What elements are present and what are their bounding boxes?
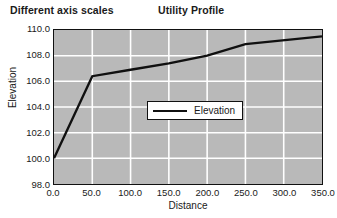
y-axis-tick-label: 110.0 <box>2 24 50 34</box>
figure-caption: Different axis scales <box>10 4 114 16</box>
x-axis-label: Distance <box>53 200 323 211</box>
chart-title: Utility Profile <box>158 4 224 16</box>
y-axis-label: Elevation <box>7 53 18 123</box>
legend: Elevation <box>147 101 243 120</box>
y-axis-tick-label: 102.0 <box>2 128 50 138</box>
y-axis-tick-label: 100.0 <box>2 154 50 164</box>
legend-label: Elevation <box>194 105 235 116</box>
chart-figure: Different axis scales Utility Profile 11… <box>0 0 337 218</box>
x-axis-tick-label: 350.0 <box>300 188 337 198</box>
legend-line-swatch <box>153 110 187 112</box>
